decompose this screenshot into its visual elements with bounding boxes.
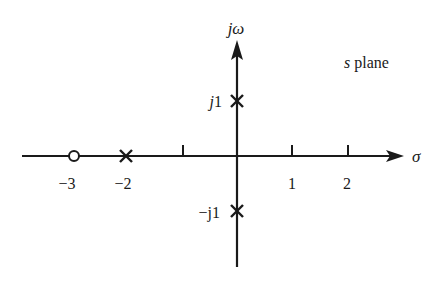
tick-label-neg3: −3 <box>58 175 75 192</box>
plane-title: s plane <box>344 54 389 72</box>
imag-label-pos: j1 <box>208 93 222 111</box>
imaginary-axis-label: jω <box>226 19 245 38</box>
tick-label-pos2: 2 <box>343 175 351 192</box>
imaginary-axis <box>231 40 243 267</box>
s-plane-diagram: jω σ s plane −3 −2 1 2 j1 −j1 <box>0 0 441 281</box>
zero-marker-icon <box>69 151 79 161</box>
tick-marks <box>183 145 348 156</box>
real-axis-label: σ <box>412 147 421 166</box>
tick-label-pos1: 1 <box>288 175 296 192</box>
tick-label-neg2: −2 <box>114 175 131 192</box>
imag-label-neg: −j1 <box>199 204 220 222</box>
